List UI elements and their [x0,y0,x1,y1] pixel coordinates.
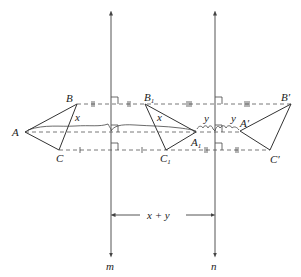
brace-y-right [215,126,239,131]
glide-reflection-diagram: A B C B1 A1 C1 A′ B′ C′ x x y y x + y m … [0,0,301,277]
label-x-left: x [74,111,80,123]
label-a1: A1 [190,136,201,150]
brace-x-right [111,125,196,131]
label-a-prime: A′ [239,117,250,129]
label-a: A [11,126,19,138]
congruence-tick-marks [80,101,249,153]
label-c1: C1 [160,152,171,166]
label-c: C [56,152,64,164]
label-c-prime: C′ [270,153,280,165]
brace-y-left [197,126,215,131]
label-b: B [66,92,73,104]
label-y-right: y [230,112,236,124]
label-y-left: y [203,112,209,124]
label-b-prime: B′ [281,91,291,103]
label-m: m [106,260,114,272]
label-b1: B1 [144,91,154,105]
brace-x-left [28,124,111,131]
label-n: n [211,260,217,272]
label-x-plus-y: x + y [146,209,170,221]
distance-braces [28,124,239,131]
label-x-right: x [156,111,162,123]
triangle-abc [25,104,77,150]
